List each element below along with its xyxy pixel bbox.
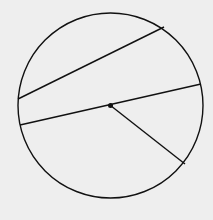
radius-line xyxy=(111,106,186,165)
circle-diagram xyxy=(0,0,213,220)
chord-line xyxy=(18,27,164,99)
center-point xyxy=(108,103,113,108)
